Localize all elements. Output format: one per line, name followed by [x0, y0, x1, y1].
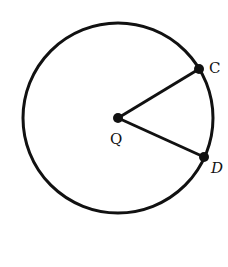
circle-diagram: Q C D — [0, 0, 228, 267]
label-q: Q — [110, 130, 122, 148]
point-c — [194, 64, 204, 74]
label-c: C — [209, 59, 220, 77]
radius-qd — [118, 118, 204, 157]
label-d: D — [210, 159, 223, 177]
point-d — [199, 152, 209, 162]
radius-qc — [118, 69, 199, 118]
center-point — [113, 113, 123, 123]
